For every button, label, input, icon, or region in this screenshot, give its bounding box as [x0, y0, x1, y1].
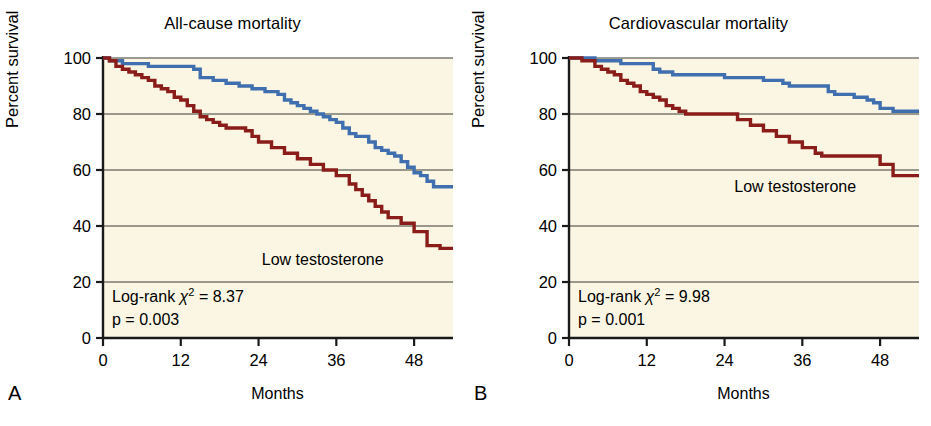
low-testosterone-curve-label: Low testosterone	[262, 251, 384, 268]
x-tick-label-12: 12	[638, 351, 656, 369]
x-tick-label-36: 36	[793, 351, 811, 369]
y-tick-label-40: 40	[539, 217, 557, 235]
y-tick-label-60: 60	[539, 161, 557, 179]
x-tick-label-0: 0	[564, 351, 573, 369]
panel-b-plot: 020406080100012243648Low testosteroneLog…	[466, 0, 931, 426]
y-tick-label-100: 100	[63, 49, 91, 67]
x-tick-label-48: 48	[405, 351, 423, 369]
x-tick-label-24: 24	[249, 351, 267, 369]
y-tick-label-0: 0	[82, 329, 91, 347]
y-tick-label-80: 80	[539, 105, 557, 123]
panel-cardiovascular-mortality: Cardiovascular mortality Percent surviva…	[466, 0, 931, 426]
panel-a-plot: 020406080100012243648Low testosteroneLog…	[0, 0, 465, 426]
x-tick-label-48: 48	[871, 351, 889, 369]
y-tick-label-0: 0	[548, 329, 557, 347]
log-rank-statistic: Log-rank χ2 = 9.98	[578, 286, 710, 305]
figure-container: All-cause mortality Percent survival 020…	[0, 0, 931, 426]
x-tick-label-12: 12	[172, 351, 190, 369]
low-testosterone-curve-label: Low testosterone	[734, 178, 856, 195]
panel-b-letter: B	[474, 382, 487, 405]
y-tick-label-80: 80	[73, 105, 91, 123]
x-tick-label-0: 0	[98, 351, 107, 369]
y-tick-label-60: 60	[73, 161, 91, 179]
panel-a-xaxis-title: Months	[100, 385, 455, 403]
y-tick-label-20: 20	[539, 273, 557, 291]
y-tick-label-100: 100	[529, 49, 557, 67]
y-tick-label-20: 20	[73, 273, 91, 291]
panel-a-letter: A	[8, 382, 21, 405]
log-rank-statistic: Log-rank χ2 = 8.37	[112, 286, 244, 305]
y-tick-label-40: 40	[73, 217, 91, 235]
p-value: p = 0.003	[112, 311, 179, 328]
x-tick-label-36: 36	[327, 351, 345, 369]
panel-all-cause-mortality: All-cause mortality Percent survival 020…	[0, 0, 465, 426]
panel-b-xaxis-title: Months	[566, 385, 921, 403]
x-tick-label-24: 24	[715, 351, 733, 369]
p-value: p = 0.001	[578, 311, 645, 328]
